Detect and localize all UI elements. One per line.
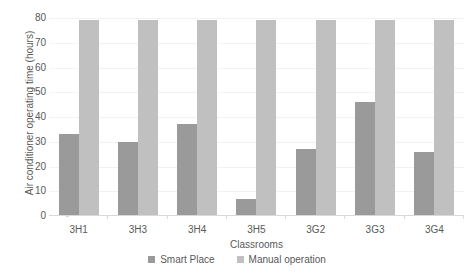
bar-3h1-smart-place[interactable] [59, 134, 79, 216]
bar-group [405, 18, 464, 216]
y-axis-tick-label: 10 [20, 186, 46, 196]
x-axis-tick-mark [168, 216, 227, 220]
x-axis-tick-mark [227, 216, 286, 220]
x-axis-tick-label-3h1: 3H1 [49, 223, 108, 237]
bar-groups [49, 18, 464, 216]
bar-3h1-manual-operation[interactable] [79, 20, 99, 216]
bar-3h4-smart-place[interactable] [177, 124, 197, 216]
legend-swatch-icon [237, 256, 244, 263]
bar-group [227, 18, 286, 216]
y-axis-tick-label: 40 [20, 112, 46, 122]
bar-3g2-manual-operation[interactable] [316, 20, 336, 216]
x-axis-tick-label-3h4: 3H4 [168, 223, 227, 237]
plot-area [49, 18, 464, 216]
bar-3h5-smart-place[interactable] [236, 199, 256, 216]
x-axis-tick-mark [405, 216, 464, 220]
y-axis-tick-label: 20 [20, 162, 46, 172]
bar-3g4-manual-operation[interactable] [434, 20, 454, 216]
x-axis-tick-marks [49, 216, 464, 220]
bar-3h3-manual-operation[interactable] [138, 20, 158, 216]
bar-3h4-manual-operation[interactable] [197, 20, 217, 216]
x-axis-tick-mark [49, 216, 108, 220]
y-axis-tick-label: 60 [20, 63, 46, 73]
x-axis-tick-labels: 3H13H33H43H53G23G33G4 [49, 223, 464, 237]
bar-group [168, 18, 227, 216]
x-axis-tick-label-3g4: 3G4 [405, 223, 464, 237]
legend-item-smart-place[interactable]: Smart Place [148, 253, 214, 266]
y-axis-tick-label: 0 [20, 211, 46, 221]
bar-group [345, 18, 404, 216]
bar-3g4-smart-place[interactable] [414, 152, 434, 216]
y-axis-tick-labels: 01020304050607080 [20, 18, 46, 216]
x-axis-tick-mark [108, 216, 167, 220]
bar-3g3-manual-operation[interactable] [375, 20, 395, 216]
y-axis-tick-label: 80 [20, 13, 46, 23]
chart-legend: Smart PlaceManual operation [0, 253, 474, 266]
bar-chart: Air conditioner operating time (hours) 0… [0, 0, 474, 278]
bar-3h5-manual-operation[interactable] [256, 20, 276, 216]
y-axis-tick-label: 50 [20, 87, 46, 97]
x-axis-tick-label-3h5: 3H5 [227, 223, 286, 237]
bar-3g2-smart-place[interactable] [296, 149, 316, 216]
bar-group [286, 18, 345, 216]
y-axis-tick-label: 30 [20, 137, 46, 147]
legend-swatch-icon [148, 256, 155, 263]
x-axis-tick-mark [345, 216, 404, 220]
bar-group [108, 18, 167, 216]
y-axis-tick-label: 70 [20, 38, 46, 48]
x-axis-title: Classrooms [49, 238, 464, 251]
legend-item-manual-operation[interactable]: Manual operation [237, 253, 326, 266]
x-axis-tick-label-3h3: 3H3 [108, 223, 167, 237]
bar-3g3-smart-place[interactable] [355, 102, 375, 216]
x-axis-tick-label-3g3: 3G3 [345, 223, 404, 237]
x-axis-tick-label-3g2: 3G2 [286, 223, 345, 237]
x-axis-tick-mark [286, 216, 345, 220]
legend-label: Manual operation [249, 253, 326, 266]
legend-label: Smart Place [160, 253, 214, 266]
bar-group [49, 18, 108, 216]
bar-3h3-smart-place[interactable] [118, 142, 138, 216]
